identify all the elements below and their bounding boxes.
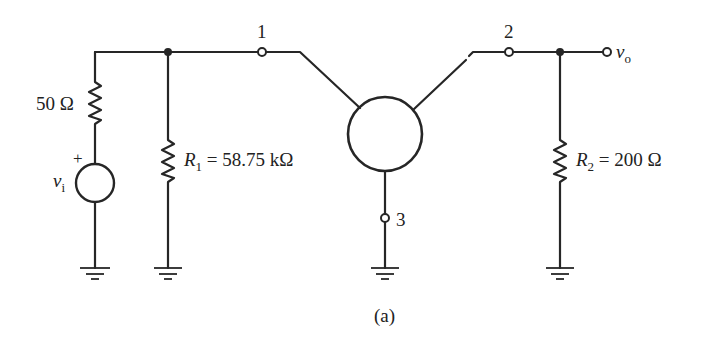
output-label: vo xyxy=(616,42,631,65)
r1-branch-wire xyxy=(162,52,174,268)
right-diagonal-wire xyxy=(413,52,505,110)
figure-caption: (a) xyxy=(374,306,395,325)
top-wire-left xyxy=(95,52,360,108)
source-polarity-plus: + xyxy=(73,150,83,167)
source-branch-wire xyxy=(89,52,101,164)
terminal-2-label: 2 xyxy=(504,22,514,41)
r1-subscript: 1 xyxy=(196,159,203,174)
source-subscript: i xyxy=(61,180,65,195)
r1-symbol: R xyxy=(184,149,196,170)
series-resistor-label: 50 Ω xyxy=(36,94,74,113)
r2-branch-wire xyxy=(554,52,566,268)
r2-symbol: R xyxy=(576,149,588,170)
r1-value: = 58.75 kΩ xyxy=(207,149,294,170)
terminal-1-label: 1 xyxy=(257,22,267,41)
r2-value: = 200 Ω xyxy=(599,149,662,170)
ground-icon xyxy=(546,268,574,279)
terminal-1 xyxy=(258,48,266,56)
terminal-3 xyxy=(381,214,389,222)
r2-subscript: 2 xyxy=(588,159,595,174)
device-circle xyxy=(348,97,422,171)
circuit-diagram: 50 Ω + vi R1 = 58.75 kΩ 1 2 3 vo R2 = 20… xyxy=(0,0,718,343)
r1-label: R1 = 58.75 kΩ xyxy=(184,150,293,173)
ground-icon xyxy=(80,268,110,279)
terminal-2 xyxy=(505,48,513,56)
r2-label: R2 = 200 Ω xyxy=(576,150,662,173)
terminal-3-label: 3 xyxy=(396,210,406,229)
ground-icon xyxy=(371,268,399,279)
output-subscript: o xyxy=(624,51,631,66)
source-label: vi xyxy=(53,171,65,194)
output-terminal xyxy=(603,48,611,56)
voltage-source xyxy=(76,164,114,202)
ground-icon xyxy=(154,268,182,279)
